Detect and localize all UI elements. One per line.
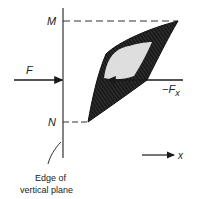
label-x-axis: x xyxy=(177,150,184,161)
label-m: M xyxy=(47,15,57,27)
label-edge-line2: vertical plane xyxy=(20,185,73,195)
edge-leader-line xyxy=(48,142,61,164)
label-n: N xyxy=(48,116,56,128)
label-edge-line1: Edge of xyxy=(35,173,67,183)
vertical-plane-force-diagram: M N F −Fx x Edge of vertical plane xyxy=(0,0,200,199)
label-neg-fx: −Fx xyxy=(162,83,180,98)
label-f: F xyxy=(26,64,34,76)
